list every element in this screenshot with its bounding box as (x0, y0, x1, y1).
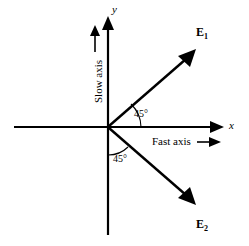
fast-axis-arrow (197, 137, 221, 147)
x-axis-arrowhead (210, 121, 224, 133)
y-axis (102, 16, 114, 235)
vector-e2-label: E2 (196, 218, 208, 233)
vector-diagram-figure: y x Slow axis Fast axis E1 E2 45° 45° (0, 0, 249, 246)
angle-label-lower: 45° (113, 154, 127, 164)
vector-e2-label-subscript: 2 (204, 224, 208, 233)
vector-e1-label-text: E (196, 25, 204, 39)
vector-e1 (109, 49, 196, 126)
vector-e1-label-subscript: 1 (204, 32, 208, 41)
y-axis-label: y (112, 4, 117, 15)
vector-e1-label: E1 (196, 26, 208, 41)
angle-label-upper: 45° (134, 109, 148, 119)
fast-axis-arrowhead (209, 137, 221, 147)
slow-axis-arrow (90, 25, 100, 52)
x-axis-label: x (229, 120, 234, 131)
fast-axis-label: Fast axis (152, 136, 191, 147)
slow-axis-arrowhead (90, 25, 100, 36)
y-axis-arrowhead (102, 16, 114, 30)
vector-e2-label-text: E (196, 217, 204, 231)
x-axis (14, 121, 224, 133)
slow-axis-label: Slow axis (93, 60, 104, 103)
diagram-canvas (0, 0, 249, 246)
